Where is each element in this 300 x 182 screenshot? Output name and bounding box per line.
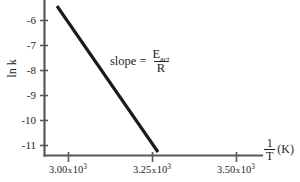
slope-label: slope [110, 54, 136, 69]
x-axis-title-denominator: T [264, 149, 275, 162]
data-line-arrhenius [57, 6, 158, 152]
x-tick-mantissa: 3.25 [133, 164, 151, 175]
x-tick-label: 3.50x103 [217, 165, 255, 176]
x-tick-exponent: 3 [167, 162, 171, 171]
slope-numerator: Eact [149, 48, 172, 61]
x-tick-base: 10 [73, 164, 84, 175]
x-axis-title-fraction: 1 T [264, 137, 275, 162]
plot-canvas [0, 0, 300, 182]
x-tick-mantissa: 3.50 [217, 164, 235, 175]
x-tick-base: 10 [157, 164, 168, 175]
slope-denominator: R [154, 61, 168, 75]
slope-numerator-symbol: E [152, 47, 160, 61]
y-axis-title: ln k [5, 47, 20, 91]
y-tick-label: -6 [10, 15, 36, 26]
slope-equation-annotation: slope = Eact R [110, 48, 172, 75]
slope-fraction: Eact R [149, 48, 172, 75]
x-tick-label: 3.00x103 [49, 165, 87, 176]
arrhenius-plot-figure: -6 -7 -8 -9 -10 -11 ln k 3.00x103 3.25x1… [0, 0, 300, 182]
x-tick-exponent: 3 [251, 162, 255, 171]
x-tick-mantissa: 3.00 [49, 164, 67, 175]
x-axis-title: 1 T (K) [264, 137, 294, 162]
x-tick-exponent: 3 [83, 162, 87, 171]
y-tick-label: -10 [6, 115, 36, 126]
y-tick-label: -11 [6, 140, 36, 151]
x-axis-title-unit: (K) [275, 142, 294, 157]
x-axis-title-numerator: 1 [265, 137, 275, 149]
x-tick-base: 10 [241, 164, 252, 175]
y-tick-label: -9 [10, 90, 36, 101]
x-tick-label: 3.25x103 [133, 165, 171, 176]
equals-sign: = [136, 54, 149, 69]
